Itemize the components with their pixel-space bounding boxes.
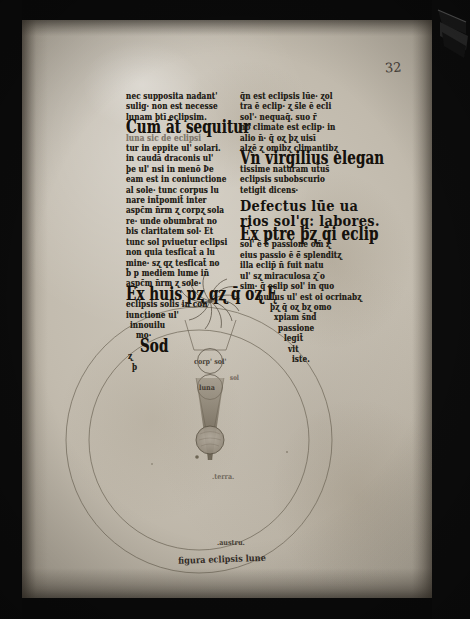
leaf-top-edge <box>22 20 432 36</box>
frame-band-bottom <box>0 598 470 619</box>
text-column-right: q̄n est eclipsis lūe· ʐoltra ē eclip· ʐ… <box>240 90 344 363</box>
frame-band-right <box>432 0 470 619</box>
earth-marker-dot <box>195 455 199 459</box>
text-line: þ <box>126 361 222 373</box>
marginal-note: sol <box>222 372 239 384</box>
page-clip-icon <box>436 6 470 68</box>
diagram-caption: figura eclipsis lune <box>178 552 266 566</box>
text-column-left: nec supposita nadant'sulig· non est nece… <box>126 90 222 371</box>
parchment-leaf: corp' sol' luna .terra. .austru. figura … <box>22 20 432 598</box>
text-line: tetigit dicens· <box>240 184 344 196</box>
frame-band-top <box>0 0 470 20</box>
leaf-bottom-edge <box>22 568 432 598</box>
eclipse-diagram <box>22 20 432 598</box>
manuscript-page: corp' sol' luna .terra. .austru. figura … <box>0 0 470 619</box>
earth-globe <box>196 426 224 454</box>
text-line: iste. <box>240 353 344 365</box>
diagram-label-moon: luna <box>199 383 215 392</box>
frame-band-left <box>0 0 22 619</box>
leaf-right-edge <box>412 20 432 598</box>
leaf-left-edge <box>22 20 48 598</box>
diagram-label-earth: .terra. <box>212 472 234 481</box>
diagram-label-south: .austru. <box>217 538 245 547</box>
earth-shading <box>199 432 221 447</box>
folio-number: 32 <box>384 59 402 75</box>
